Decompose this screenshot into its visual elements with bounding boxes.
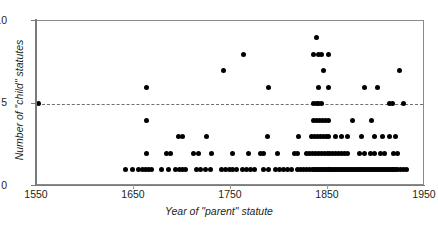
data-point xyxy=(168,151,173,156)
x-tick-label-1550: 1550 xyxy=(6,189,66,200)
data-point xyxy=(209,151,214,156)
data-point xyxy=(395,151,400,156)
data-point xyxy=(191,151,196,156)
data-point xyxy=(296,134,301,139)
x-tick-mark-1750 xyxy=(230,185,231,189)
y-tick-label-10: 10 xyxy=(0,15,7,26)
data-point xyxy=(359,134,364,139)
x-tick-label-1950: 1950 xyxy=(394,189,438,200)
data-point xyxy=(326,85,331,90)
x-tick-label-1850: 1850 xyxy=(297,189,357,200)
scatter-chart-figure: 0510 15501650175018501950 Year of "paren… xyxy=(0,0,438,233)
data-point xyxy=(404,167,409,172)
data-point xyxy=(234,167,239,172)
data-point xyxy=(401,101,406,106)
data-point xyxy=(316,85,321,90)
data-point xyxy=(345,151,350,156)
data-point xyxy=(387,134,392,139)
plot-area xyxy=(36,20,424,185)
data-point xyxy=(339,134,344,139)
data-point xyxy=(372,151,377,156)
data-point xyxy=(123,167,128,172)
data-point xyxy=(289,167,294,172)
data-point xyxy=(362,85,367,90)
data-point xyxy=(36,101,41,106)
data-point xyxy=(326,134,331,139)
data-point xyxy=(144,118,149,123)
data-point xyxy=(382,151,387,156)
data-point xyxy=(319,52,324,57)
data-point xyxy=(362,151,367,156)
data-point xyxy=(166,167,171,172)
data-point xyxy=(230,151,235,156)
y-axis-spine xyxy=(35,19,37,186)
data-point xyxy=(196,151,201,156)
data-point xyxy=(321,68,326,73)
x-tick-label-1750: 1750 xyxy=(200,189,260,200)
data-point xyxy=(397,68,402,73)
data-point xyxy=(208,167,213,172)
data-point xyxy=(149,167,154,172)
y-axis-title: Number of "child" statutes xyxy=(13,15,25,185)
reference-line-y-5 xyxy=(37,104,423,105)
x-tick-label-1650: 1650 xyxy=(103,189,163,200)
y-tick-mark-10 xyxy=(31,20,35,21)
data-point xyxy=(265,134,270,139)
y-tick-mark-0 xyxy=(31,185,35,186)
data-point xyxy=(372,134,377,139)
data-point xyxy=(357,151,362,156)
data-point xyxy=(159,167,164,172)
data-point xyxy=(252,167,257,172)
data-point xyxy=(326,52,331,57)
data-point xyxy=(261,151,266,156)
data-point xyxy=(393,134,398,139)
data-point xyxy=(314,35,319,40)
data-point xyxy=(266,167,271,172)
data-point xyxy=(266,85,271,90)
data-point xyxy=(275,151,280,156)
x-axis-title: Year of "parent" statute xyxy=(0,205,438,217)
data-point xyxy=(144,85,149,90)
data-point xyxy=(295,151,300,156)
data-point xyxy=(204,134,209,139)
data-point xyxy=(130,167,135,172)
data-point xyxy=(350,118,355,123)
data-point xyxy=(326,118,331,123)
data-point xyxy=(144,151,149,156)
data-point xyxy=(380,134,385,139)
data-point xyxy=(369,118,374,123)
data-point xyxy=(333,134,338,139)
data-point xyxy=(319,101,324,106)
data-point xyxy=(221,68,226,73)
x-tick-mark-1650 xyxy=(133,185,134,189)
x-tick-mark-1850 xyxy=(327,185,328,189)
y-tick-mark-5 xyxy=(31,103,35,104)
data-point xyxy=(390,101,395,106)
data-point xyxy=(246,151,251,156)
data-point xyxy=(183,167,188,172)
data-point xyxy=(345,134,350,139)
data-point xyxy=(375,85,380,90)
y-tick-label-5: 5 xyxy=(0,97,7,108)
data-point xyxy=(241,52,246,57)
